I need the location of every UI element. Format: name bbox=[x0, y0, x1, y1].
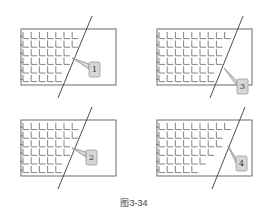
panel-frame bbox=[21, 120, 116, 176]
figure-caption: 图3-34 bbox=[0, 196, 268, 209]
panel-frame bbox=[157, 29, 252, 85]
panel-1: 1 bbox=[20, 16, 116, 98]
callout-label: 4 bbox=[239, 159, 244, 168]
panel-frame bbox=[21, 29, 116, 85]
callout-label: 2 bbox=[89, 153, 94, 162]
callout-label: 1 bbox=[92, 65, 97, 74]
panel-3: 3 bbox=[156, 16, 252, 98]
callout-label: 3 bbox=[240, 82, 245, 91]
panel-2: 2 bbox=[20, 107, 116, 189]
figure-canvas: 1 3 2 4 bbox=[0, 0, 268, 215]
panel-4: 4 bbox=[156, 107, 252, 189]
